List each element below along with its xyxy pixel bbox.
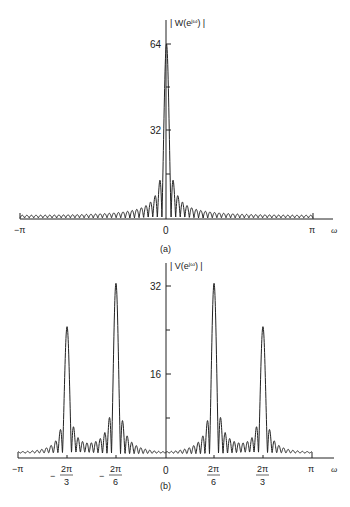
x-tick-zero-b: 0 [163, 465, 169, 476]
panel-a: 64 32 | W(ejω) | −π 0 π ω (a) [14, 18, 337, 254]
panel-b: 32 16 | V(ejω) | −π − 2π 3 − 2π 6 0 2π 6… [12, 261, 337, 491]
svg-text:6: 6 [113, 477, 118, 487]
svg-text:6: 6 [211, 477, 216, 487]
x-tick-2pi-6: 2π 6 [207, 464, 220, 487]
x-tick-2pi-3: 2π 3 [256, 464, 269, 487]
svg-text:3: 3 [64, 477, 69, 487]
x-tick-neg-pi-a: −π [14, 225, 25, 235]
caption-a: (a) [160, 244, 171, 254]
y-tick-16-b: 16 [150, 369, 162, 380]
svg-text:2π: 2π [61, 464, 72, 474]
y-tick-32-b: 32 [150, 281, 162, 292]
x-tick-neg-2pi-6: − 2π 6 [99, 464, 122, 487]
y-axis-label-a: | W(ejω) | [170, 18, 205, 28]
svg-text:2π: 2π [110, 464, 121, 474]
svg-text:−: − [99, 471, 104, 481]
y-tick-32: 32 [150, 125, 162, 136]
caption-b: (b) [160, 481, 171, 491]
x-tick-pi-a: π [309, 225, 315, 235]
x-tick-zero-a: 0 [163, 225, 169, 236]
svg-text:2π: 2π [208, 464, 219, 474]
x-tick-pi-b: π [308, 464, 314, 474]
y-tick-64: 64 [150, 39, 162, 50]
x-axis-label-a: ω [331, 225, 337, 235]
v-magnitude-curve [18, 283, 312, 453]
svg-text:2π: 2π [257, 464, 268, 474]
y-axis-label-b: | V(ejω) | [170, 261, 203, 271]
figure: 64 32 | W(ejω) | −π 0 π ω (a) 32 16 | V(… [0, 0, 350, 507]
x-tick-neg-2pi-3: − 2π 3 [50, 464, 73, 487]
x-tick-neg-pi-b: −π [12, 464, 23, 474]
svg-text:−: − [50, 471, 55, 481]
x-axis-label-b: ω [331, 464, 337, 474]
svg-text:3: 3 [260, 477, 265, 487]
